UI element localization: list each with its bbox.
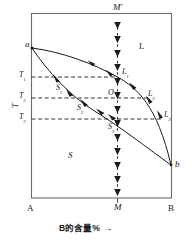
l2-sub: 2 [152,96,155,101]
x-axis-label-group: B的含量%→ [59,221,112,233]
curve-endpoint-a: a [25,40,30,49]
t2-sub: 2 [23,98,26,103]
labelled-point-dots [31,47,173,167]
plot-frame [32,14,172,199]
x-axis-arrow-icon: → [104,223,113,233]
top-composition-label-m-prime: M' [113,3,122,12]
liquidus-point-l3: L3 [164,111,171,121]
axis-corner-a: A [27,203,34,213]
solidus-point-s1: S1 [56,84,63,94]
curve-endpoint-b: b [175,160,180,169]
s3-sub: 3 [112,129,115,134]
t1-sub: 1 [23,77,26,82]
temperature-tick-t2: T2 [19,92,26,102]
s2-sub: 2 [81,110,84,115]
l1-sub: 1 [126,74,129,79]
vertical-composition-line [114,22,121,196]
region-label-solid: S [68,151,73,160]
solidus-direction-arrows [53,74,116,121]
t3-sub: 3 [23,119,26,124]
liquidus-point-l2: L2 [148,90,155,100]
axis-composition-m: M [114,203,122,212]
temperature-tick-t1: T1 [19,71,26,81]
axis-corner-b: B [168,203,174,213]
liquidus-point-l1: L1 [122,68,129,78]
system-point-o: O [108,89,114,97]
y-axis-label: T [10,103,20,108]
solidus-point-s2: S2 [77,104,84,114]
liquidus-curve [32,48,171,165]
region-label-liquid: L [139,42,145,51]
phase-diagram-figure: T T1 T2 T3 a b M' L S O L1 L2 L3 S1 S2 S… [0,0,194,242]
temperature-tick-t3: T3 [19,113,26,123]
solidus-point-s3: S3 [108,123,115,133]
l3-sub: 3 [168,117,171,122]
x-axis-label-text: B的含量% [59,223,100,233]
s1-sub: 1 [60,90,63,95]
solidus-curve [32,48,171,165]
